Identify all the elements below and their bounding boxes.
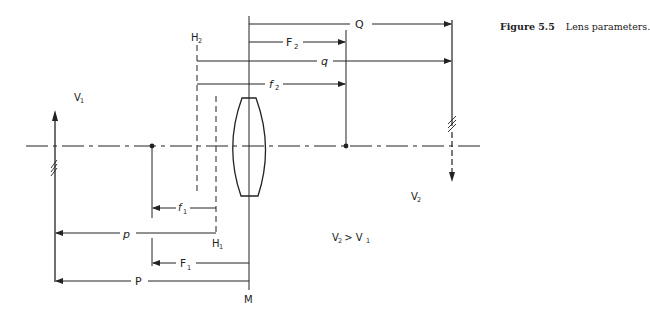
dimension-F1: F 1 bbox=[153, 257, 249, 272]
svg-text:1: 1 bbox=[219, 243, 223, 251]
svg-text:2: 2 bbox=[275, 84, 279, 92]
label-F1: F bbox=[180, 257, 186, 269]
front-focal-point bbox=[150, 144, 155, 266]
label-P: P bbox=[135, 275, 142, 288]
figure-caption: Figure 5.5 Lens parameters. bbox=[500, 21, 650, 32]
rear-focal-point bbox=[344, 30, 349, 148]
lens-parameters-diagram: Q F 2 q f 2 f 1 bbox=[0, 0, 650, 320]
label-F2: F bbox=[286, 36, 292, 49]
svg-text:2: 2 bbox=[294, 43, 298, 51]
object-arrow bbox=[51, 110, 58, 282]
dimension-p: p bbox=[56, 228, 216, 241]
svg-text:M: M bbox=[244, 294, 253, 305]
label-q: q bbox=[321, 55, 328, 68]
svg-text:1: 1 bbox=[80, 97, 84, 105]
label-p: p bbox=[122, 228, 130, 241]
dimension-f1: f 1 bbox=[153, 202, 216, 216]
dimension-F2: F 2 bbox=[249, 36, 345, 51]
figure-number: Figure 5.5 bbox=[500, 21, 555, 32]
dimension-q: q bbox=[197, 55, 451, 68]
dimension-P: P bbox=[56, 275, 249, 288]
label-Q: Q bbox=[355, 18, 364, 31]
dimension-f2: f 2 bbox=[197, 78, 345, 92]
label-v2-greater-than-v1: V 2 > V 1 bbox=[332, 232, 370, 245]
svg-text:1: 1 bbox=[183, 208, 187, 216]
svg-text:2: 2 bbox=[198, 37, 202, 45]
label-V2: V 2 bbox=[411, 191, 421, 204]
figure-title: Lens parameters. bbox=[566, 21, 650, 32]
svg-text:> V: > V bbox=[341, 232, 363, 243]
label-M: M bbox=[244, 294, 253, 305]
label-V1: V 1 bbox=[74, 92, 84, 105]
image-arrow bbox=[448, 20, 456, 182]
svg-text:2: 2 bbox=[417, 196, 421, 204]
svg-text:1: 1 bbox=[187, 264, 191, 272]
svg-text:1: 1 bbox=[366, 237, 370, 245]
dimension-Q: Q bbox=[249, 18, 451, 31]
label-H1: H 1 bbox=[212, 238, 223, 251]
label-H2: H 2 bbox=[191, 32, 202, 45]
